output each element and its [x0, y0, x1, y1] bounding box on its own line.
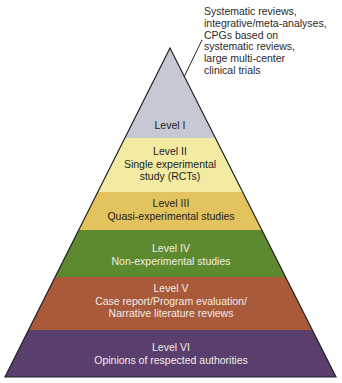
level-6-title: Level VI — [94, 341, 248, 354]
level-1-title: Level I — [155, 119, 186, 132]
level-2-title: Level II — [124, 145, 216, 158]
level-4-description: Non-experimental studies — [111, 255, 230, 268]
level-4-title: Level IV — [111, 242, 230, 255]
level-3-label: Level III Quasi-experimental studies — [107, 197, 234, 222]
level-5-label: Level V Case report/Program evaluation/ … — [95, 282, 247, 320]
level-1-annotation: Systematic reviews, integrative/meta-ana… — [204, 6, 327, 77]
level-6-description: Opinions of respected authorities — [94, 354, 248, 367]
level-3-title: Level III — [107, 197, 234, 210]
level-5-description: Case report/Program evaluation/ Narrativ… — [95, 295, 247, 320]
level-2-description: Single experimental study (RCTs) — [124, 158, 216, 183]
level-5-title: Level V — [95, 282, 247, 295]
level-2-label: Level II Single experimental study (RCTs… — [124, 145, 216, 183]
level-4-label: Level IV Non-experimental studies — [111, 242, 230, 267]
level-3-description: Quasi-experimental studies — [107, 210, 234, 223]
level-6-label: Level VI Opinions of respected authoriti… — [94, 341, 248, 366]
level-1-label: Level I — [155, 119, 186, 132]
annotation-leader-line — [184, 40, 202, 77]
